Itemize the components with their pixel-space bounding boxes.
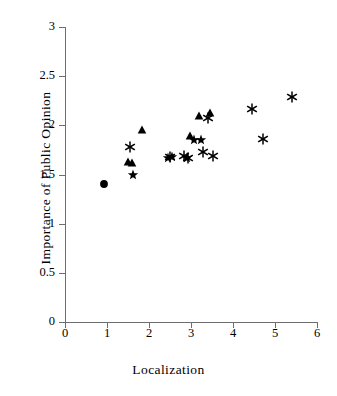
y-tick [59,27,65,28]
y-axis-line [65,27,66,323]
data-point-filled-circle [98,179,109,190]
x-tick-label: 1 [92,327,122,340]
x-tick-label-wrap: 0 [50,327,80,341]
x-tick-label: 5 [260,327,290,340]
x-tick-label-wrap: 4 [218,327,248,341]
scatter-plot-figure: 00.511.522.530123456 Localization Import… [0,0,337,396]
y-tick [59,125,65,126]
data-point-filled-triangle [126,157,138,169]
x-tick-label: 4 [218,327,248,340]
x-tick-label: 2 [134,327,164,340]
data-point-six-spoke-asterisk [182,151,195,164]
data-point-six-spoke-asterisk [206,149,219,162]
data-point-six-spoke-asterisk [164,150,177,163]
x-tick-label: 3 [176,327,206,340]
data-point-five-point-star [127,168,140,181]
y-tick [59,76,65,77]
y-axis-title: Importance of Public Opinion [38,28,54,328]
x-tick-label-wrap: 3 [176,327,206,341]
x-tick-label-wrap: 2 [134,327,164,341]
x-tick-label: 6 [302,327,332,340]
x-axis-title: Localization [0,362,337,378]
data-point-six-spoke-asterisk [286,90,299,103]
y-tick [59,224,65,225]
x-tick-label-wrap: 5 [260,327,290,341]
x-tick-label-wrap: 1 [92,327,122,341]
data-point-six-spoke-asterisk [256,133,269,146]
data-point-six-spoke-asterisk [124,140,137,153]
data-point-six-spoke-asterisk [245,103,258,116]
x-tick-label-wrap: 6 [302,327,332,341]
x-tick-label: 0 [50,327,80,340]
data-point-six-spoke-asterisk [202,112,215,125]
data-point-filled-triangle [136,124,148,136]
data-point-five-point-star [194,133,207,146]
y-tick [59,175,65,176]
y-tick [59,273,65,274]
